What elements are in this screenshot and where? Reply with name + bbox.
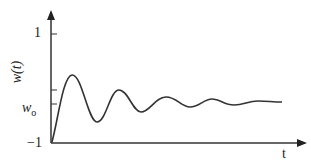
tick-label-wo: wo: [22, 101, 36, 118]
tick-label-wo-main: w: [22, 100, 31, 115]
chart-canvas: [0, 0, 311, 165]
y-axis-label: w(t): [9, 60, 25, 84]
tick-label-minus-one: −1: [27, 136, 42, 150]
x-axis-label: t: [282, 147, 286, 161]
response-curve: [52, 75, 282, 142]
tick-label-one: 1: [34, 26, 41, 40]
tick-label-wo-sub: o: [31, 107, 36, 118]
